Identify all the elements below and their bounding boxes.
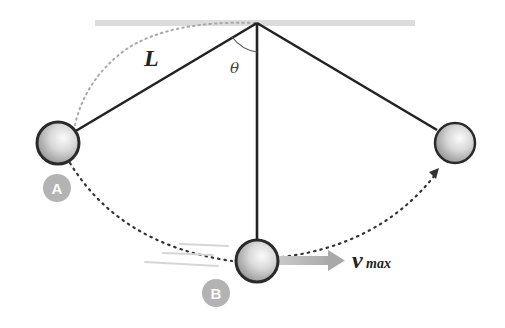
velocity-subscript: max bbox=[366, 256, 391, 271]
badge-b-label: B bbox=[211, 285, 222, 302]
angle-label: θ bbox=[230, 59, 239, 77]
badge-a-label: A bbox=[52, 180, 63, 197]
badge-b: B bbox=[202, 279, 230, 307]
swing-path-right bbox=[282, 175, 435, 257]
string-left bbox=[74, 23, 257, 132]
length-label: L bbox=[143, 45, 159, 71]
angle-arc bbox=[232, 37, 257, 52]
bob-right bbox=[435, 123, 475, 163]
motion-streaks bbox=[145, 244, 228, 266]
string-right bbox=[257, 23, 437, 130]
swing-path-left bbox=[70, 163, 232, 261]
length-arc bbox=[75, 23, 255, 125]
badge-a: A bbox=[43, 174, 71, 202]
bob-left bbox=[37, 122, 79, 164]
velocity-arrow-icon bbox=[278, 250, 345, 271]
bob-bottom bbox=[236, 240, 278, 282]
pendulum-diagram: A B L θ v max bbox=[0, 0, 505, 328]
velocity-label: v bbox=[352, 247, 363, 273]
